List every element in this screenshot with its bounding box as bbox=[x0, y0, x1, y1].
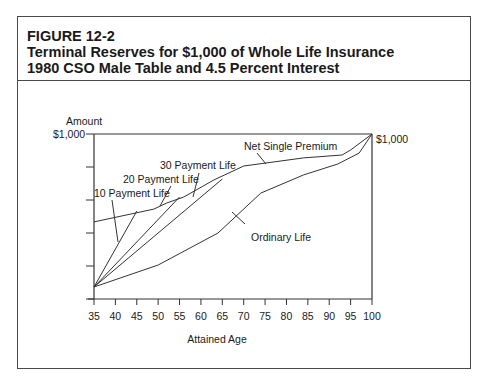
right-end-label: $1,000 bbox=[376, 133, 408, 145]
x-tick-label: 50 bbox=[152, 310, 164, 322]
x-tick-label: 55 bbox=[174, 310, 186, 322]
x-tick-label: 65 bbox=[216, 310, 228, 322]
leader-10-payment-life bbox=[112, 200, 118, 242]
series-ordinary-life bbox=[94, 134, 372, 287]
label-20-payment-life: 20 Payment Life bbox=[123, 173, 199, 185]
x-tick-label: 45 bbox=[131, 310, 143, 322]
y-axis-label: Amount bbox=[66, 115, 102, 127]
x-tick-label: 80 bbox=[281, 310, 293, 322]
chart: 35404550556065707580859095100 Amount $1,… bbox=[0, 0, 487, 388]
x-tick-label: 85 bbox=[302, 310, 314, 322]
label-ordinary-life: Ordinary Life bbox=[251, 231, 311, 243]
series-20-payment-life bbox=[94, 197, 180, 287]
label-30-payment-life: 30 Payment Life bbox=[160, 159, 236, 171]
x-tick-label: 100 bbox=[363, 310, 381, 322]
x-tick-label: 40 bbox=[110, 310, 122, 322]
x-tick-label: 70 bbox=[238, 310, 250, 322]
x-axis-label: Attained Age bbox=[187, 333, 247, 345]
label-net-single-premium: Net Single Premium bbox=[244, 140, 338, 152]
label-10-payment-life: 10 Payment Life bbox=[94, 187, 170, 199]
x-tick-label: 60 bbox=[195, 310, 207, 322]
x-tick-label: 95 bbox=[345, 310, 357, 322]
y-tick-top-label: $1,000 bbox=[53, 128, 85, 140]
x-tick-label: 35 bbox=[88, 310, 100, 322]
x-tick-label: 75 bbox=[259, 310, 271, 322]
leader-net-single-premium bbox=[257, 153, 266, 164]
chart-series bbox=[94, 134, 372, 287]
x-tick-label: 90 bbox=[323, 310, 335, 322]
